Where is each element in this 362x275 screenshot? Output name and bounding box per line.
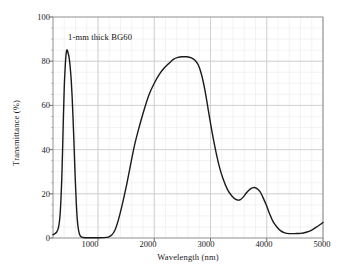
x-tick-label: 2000 <box>128 240 168 249</box>
x-tick-label: 5000 <box>302 240 342 249</box>
x-tick-label: 3000 <box>186 240 226 249</box>
x-tick-label: 1000 <box>70 240 110 249</box>
x-axis-tick-labels: 1000 2000 3000 4000 5000 <box>0 0 362 275</box>
transmittance-chart: Transmittance (%) Wavelength (nm) 100 80… <box>0 0 362 275</box>
x-tick-label: 4000 <box>244 240 284 249</box>
chart-annotation: 1-mm thick BG60 <box>68 32 132 42</box>
